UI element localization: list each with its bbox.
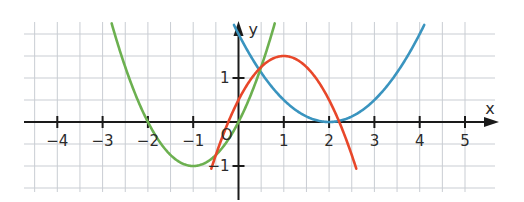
x-axis-arrow-icon <box>484 117 499 127</box>
x-tick-label: −1 <box>182 132 204 150</box>
x-tick-label: −4 <box>46 132 68 150</box>
x-axis-label: x <box>485 99 494 118</box>
x-tick-label: 4 <box>415 132 425 150</box>
x-tick-label: 3 <box>370 132 380 150</box>
origin-label: O <box>221 126 233 144</box>
function-graph: −4−3−2−1123451−1Oxy <box>0 0 524 202</box>
x-tick-label: 2 <box>324 132 334 150</box>
y-axis-label: y <box>249 20 258 39</box>
x-tick-label: 1 <box>279 132 289 150</box>
grid <box>24 22 495 192</box>
x-tick-label: −2 <box>137 132 159 150</box>
y-tick-label: 1 <box>220 69 230 87</box>
x-tick-label: 5 <box>460 132 470 150</box>
labels: −4−3−2−1123451−1Oxy <box>46 20 494 175</box>
x-tick-label: −3 <box>92 132 114 150</box>
y-tick-label: −1 <box>207 157 229 175</box>
